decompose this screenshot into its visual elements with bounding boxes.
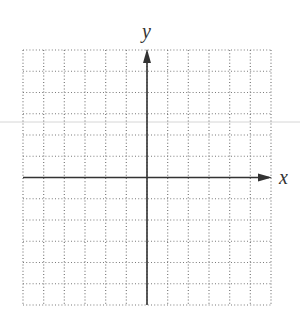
x-axis-label: x xyxy=(278,166,288,188)
axes xyxy=(23,49,272,305)
y-axis-arrow-icon xyxy=(143,49,151,63)
coordinate-plane: x y xyxy=(0,0,300,317)
x-axis-arrow-icon xyxy=(258,174,272,182)
y-axis-label: y xyxy=(140,20,151,43)
